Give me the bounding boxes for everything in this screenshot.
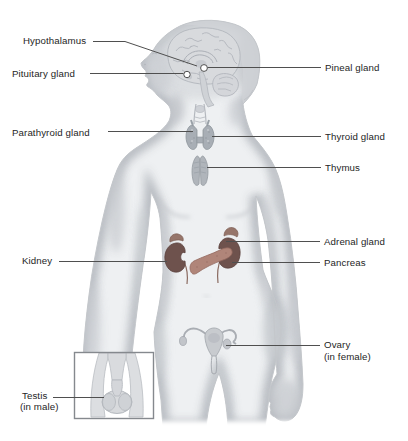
bottom-fade xyxy=(150,421,310,437)
label-pancreas: Pancreas xyxy=(324,257,366,269)
label-ovary: Ovary (in female) xyxy=(324,339,371,362)
left-testis xyxy=(103,394,116,411)
penis xyxy=(112,380,123,396)
label-adrenal-gland: Adrenal gland xyxy=(324,236,385,248)
pituitary-marker-circle xyxy=(184,71,190,77)
left-ovary xyxy=(180,337,187,346)
nostril-hint xyxy=(144,64,146,66)
label-kidney: Kidney xyxy=(22,255,52,267)
right-ovary xyxy=(223,339,231,349)
endocrine-system-diagram: Hypothalamus Pituitary gland Parathyroid… xyxy=(0,0,408,441)
label-pineal-gland: Pineal gland xyxy=(325,62,380,74)
right-testis xyxy=(119,394,132,411)
testis-inset-box xyxy=(75,353,154,419)
label-pituitary-gland: Pituitary gland xyxy=(12,68,75,80)
label-parathyroid-gland: Parathyroid gland xyxy=(12,127,90,139)
pineal-marker-circle xyxy=(201,65,208,72)
label-thyroid-gland: Thyroid gland xyxy=(325,131,385,143)
label-hypothalamus: Hypothalamus xyxy=(23,35,86,47)
label-testis: Testis (in male) xyxy=(20,390,59,413)
label-thymus: Thymus xyxy=(325,162,360,174)
